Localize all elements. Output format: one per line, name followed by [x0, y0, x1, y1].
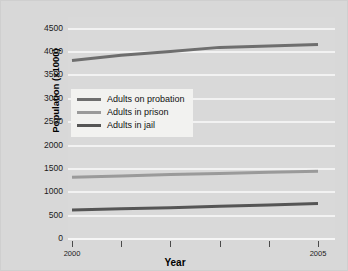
y-axis-tick-label: 1500 [19, 164, 63, 173]
legend-item[interactable]: Adults in jail [77, 119, 185, 132]
y-axis-tick-label: 500 [19, 211, 63, 220]
series-line [72, 203, 318, 210]
legend-item[interactable]: Adults in prison [77, 106, 185, 119]
legend-item-label: Adults in prison [107, 107, 169, 118]
legend-swatch-icon [77, 124, 101, 127]
x-axis-tick-mark [269, 241, 270, 247]
chart-legend: Adults on probationAdults in prisonAdult… [71, 89, 193, 137]
x-axis-tick-mark [72, 241, 73, 247]
y-axis-tick-label: 4500 [19, 24, 63, 33]
series-line [72, 45, 318, 61]
y-axis-tick-label: 3000 [19, 94, 63, 103]
y-axis-tick-label: 4000 [19, 47, 63, 56]
legend-item[interactable]: Adults on probation [77, 93, 185, 106]
y-axis-tick-label: 1000 [19, 187, 63, 196]
x-axis-tick-mark [318, 241, 319, 247]
y-axis-tick-label: 2500 [19, 117, 63, 126]
x-axis-title: Year [1, 257, 348, 268]
legend-item-label: Adults on probation [107, 94, 185, 105]
legend-swatch-icon [77, 111, 101, 114]
y-axis-tick-label: 0 [19, 234, 63, 243]
legend-item-label: Adults in jail [107, 120, 155, 131]
chart-figure: Population (x1000) 050010001500200025003… [0, 0, 348, 271]
y-axis-tick-label: 3500 [19, 70, 63, 79]
legend-swatch-icon [77, 98, 101, 101]
y-axis-tick-label: 2000 [19, 141, 63, 150]
x-axis-tick-mark [220, 241, 221, 247]
series-line [72, 171, 318, 177]
x-axis-tick-mark [121, 241, 122, 247]
x-axis-tick-mark [170, 241, 171, 247]
